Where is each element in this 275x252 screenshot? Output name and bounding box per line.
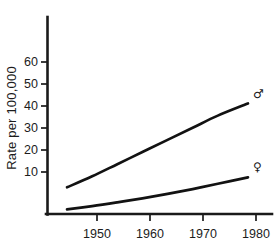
y-tick-label-40: 40 (24, 99, 38, 113)
series-line-female (67, 177, 248, 209)
y-tick-label-60: 60 (24, 55, 38, 69)
axis-group (46, 17, 272, 215)
x-tick-label-1980: 1980 (242, 227, 270, 241)
series-symbol-female: ♀ (253, 160, 262, 174)
series-line-male (67, 104, 248, 188)
chart-figure: 60 50 40 30 20 10 1950 1960 1970 1980 Ra… (0, 0, 275, 252)
y-axis-title: Rate per 100,000 (4, 66, 19, 170)
series-symbol-male: ♂ (253, 87, 264, 101)
x-tick-label-1970: 1970 (189, 227, 217, 241)
y-tick-label-20: 20 (24, 143, 38, 157)
x-tick-label-1950: 1950 (83, 227, 111, 241)
x-tick-labels: 1950 1960 1970 1980 (83, 227, 270, 241)
y-tick-label-50: 50 (24, 77, 38, 91)
y-tick-labels: 60 50 40 30 20 10 (24, 55, 38, 179)
y-tick-label-10: 10 (24, 165, 38, 179)
line-chart-svg: 60 50 40 30 20 10 1950 1960 1970 1980 Ra… (0, 0, 275, 252)
x-tick-label-1960: 1960 (136, 227, 164, 241)
y-tick-label-30: 30 (24, 121, 38, 135)
